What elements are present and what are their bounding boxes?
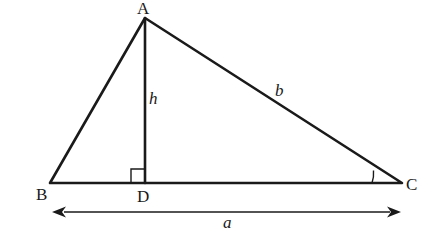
triangle-abc bbox=[50, 18, 402, 183]
side-label-h: h bbox=[149, 89, 158, 108]
right-angle-marker bbox=[131, 169, 145, 183]
vertex-label-c: C bbox=[406, 175, 417, 194]
angle-c-arc bbox=[372, 171, 374, 184]
vertex-label-a: A bbox=[137, 0, 150, 18]
side-label-b: b bbox=[275, 81, 284, 100]
vertex-label-d: D bbox=[137, 187, 149, 206]
triangle-diagram: A B D C h b a bbox=[0, 0, 442, 236]
vertex-label-b: B bbox=[36, 185, 47, 204]
arrow-left-icon bbox=[52, 207, 66, 218]
side-label-a: a bbox=[223, 213, 232, 232]
